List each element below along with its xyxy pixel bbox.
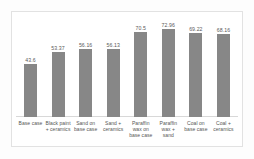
bar-group-4[interactable]: 70.5 xyxy=(128,14,153,117)
bar-rect[interactable] xyxy=(134,32,147,117)
bar-rect[interactable] xyxy=(79,49,92,117)
category-labels-row: Base case Black paint + ceramics Sand on… xyxy=(15,117,239,139)
x-axis-label-5: Paraffin wax + sand xyxy=(156,120,181,139)
bar-value-label: 68.16 xyxy=(217,27,230,33)
bar-rect[interactable] xyxy=(189,33,202,117)
bar-rect[interactable] xyxy=(24,64,37,117)
x-axis-label-6: Coal on base case xyxy=(183,120,208,139)
x-axis-label-7: Coal + ceramics xyxy=(211,120,236,139)
chart-frame: 43.6 53.37 56.16 56.13 70.5 72.96 xyxy=(11,11,243,147)
plot-area: 43.6 53.37 56.16 56.13 70.5 72.96 xyxy=(15,14,239,144)
bar-value-label: 53.37 xyxy=(51,45,64,51)
bar-value-label: 69.22 xyxy=(189,26,202,32)
bar-group-2[interactable]: 56.16 xyxy=(73,14,98,117)
bar-value-label: 70.5 xyxy=(136,25,147,31)
bar-value-label: 72.96 xyxy=(162,22,175,28)
bar-rect[interactable] xyxy=(107,49,120,117)
bar-group-1[interactable]: 53.37 xyxy=(46,14,71,117)
bar-value-label: 43.6 xyxy=(25,57,36,63)
bar-rect[interactable] xyxy=(162,29,175,117)
x-axis-label-0: Base case xyxy=(18,120,43,139)
bar-rect[interactable] xyxy=(217,34,230,117)
bar-rect[interactable] xyxy=(52,52,65,117)
bars-row: 43.6 53.37 56.16 56.13 70.5 72.96 xyxy=(15,14,239,117)
bar-group-6[interactable]: 69.22 xyxy=(183,14,208,117)
bar-value-label: 56.13 xyxy=(106,42,119,48)
bar-group-7[interactable]: 68.16 xyxy=(211,14,236,117)
x-axis-label-3: Sand + ceramics xyxy=(101,120,126,139)
x-axis-label-2: Sand on base case xyxy=(73,120,98,139)
x-axis-label-4: Paraffin wax on base case xyxy=(128,120,153,139)
x-axis-label-1: Black paint + ceramics xyxy=(46,120,71,139)
bar-group-5[interactable]: 72.96 xyxy=(156,14,181,117)
bar-group-0[interactable]: 43.6 xyxy=(18,14,43,117)
bar-group-3[interactable]: 56.13 xyxy=(101,14,126,117)
bar-value-label: 56.16 xyxy=(79,42,92,48)
